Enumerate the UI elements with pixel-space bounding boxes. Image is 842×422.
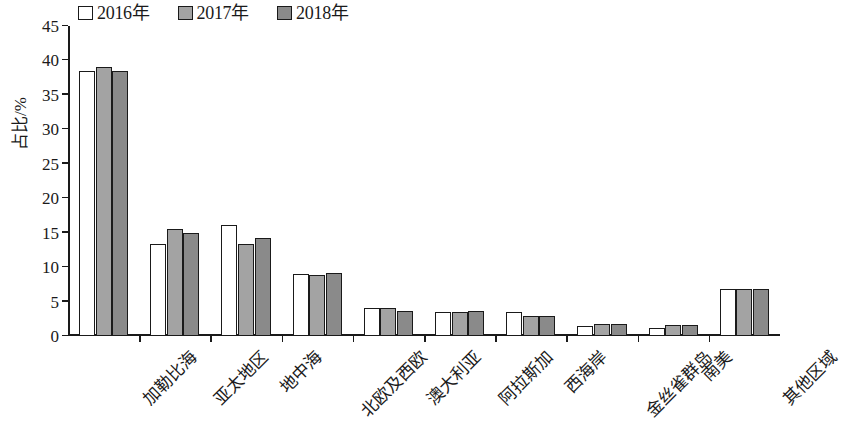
bar — [183, 233, 199, 336]
bar-group — [506, 312, 555, 336]
bar — [96, 67, 112, 336]
y-tick-label: 45 — [42, 18, 59, 35]
y-tick-mark — [62, 93, 68, 95]
y-tick-mark — [62, 300, 68, 302]
bar — [539, 316, 555, 336]
bar — [523, 316, 539, 336]
bar — [293, 274, 309, 336]
y-tick-mark — [62, 59, 68, 61]
bar — [506, 312, 522, 336]
bar — [720, 289, 736, 336]
bar — [150, 244, 166, 336]
bar — [753, 289, 769, 336]
plot-area: 051015202530354045 — [68, 26, 780, 336]
legend-swatch-icon — [277, 6, 292, 20]
x-tick-mark — [566, 336, 568, 342]
legend-entry-2016年: 2016年 — [78, 4, 150, 22]
x-axis-label: 北欧及西欧 — [354, 344, 432, 422]
bar-group — [435, 311, 484, 336]
bar-group — [720, 289, 769, 336]
y-tick-label: 10 — [42, 259, 59, 276]
bar — [468, 311, 484, 336]
x-axis-label: 亚太地区 — [207, 344, 273, 410]
y-tick-label: 40 — [42, 52, 59, 69]
y-tick-label: 15 — [42, 224, 59, 241]
x-tick-mark — [139, 336, 141, 342]
x-tick-mark — [210, 336, 212, 342]
bar — [594, 324, 610, 336]
bar — [649, 328, 665, 336]
y-tick-mark — [62, 128, 68, 130]
legend-swatch-icon — [178, 6, 193, 20]
x-tick-mark — [495, 336, 497, 342]
bar-group — [577, 324, 626, 336]
legend-label: 2016年 — [97, 4, 150, 22]
y-tick-mark — [62, 266, 68, 268]
y-tick-mark — [62, 162, 68, 164]
y-tick-label: 20 — [42, 190, 59, 207]
y-tick-label: 0 — [51, 328, 60, 345]
bar — [736, 289, 752, 336]
x-tick-mark — [282, 336, 284, 342]
y-tick-label: 5 — [51, 293, 60, 310]
bar — [167, 229, 183, 336]
x-axis-label: 加勒比海 — [136, 344, 202, 410]
legend-label: 2018年 — [296, 4, 349, 22]
bar-group — [293, 273, 342, 336]
y-tick-mark — [62, 197, 68, 199]
y-axis-label: 占比/% — [6, 97, 31, 150]
chart-legend: 2016年2017年2018年 — [78, 4, 349, 22]
bar — [577, 326, 593, 336]
y-tick-mark — [62, 335, 68, 337]
bar — [238, 244, 254, 336]
bar — [665, 325, 681, 336]
bar — [112, 71, 128, 336]
bar — [221, 225, 237, 336]
bar — [364, 308, 380, 336]
legend-label: 2017年 — [197, 4, 250, 22]
x-axis-label: 其他区域 — [776, 344, 842, 410]
bar — [682, 325, 698, 336]
legend-swatch-icon — [78, 6, 93, 20]
y-tick-label: 25 — [42, 155, 59, 172]
bar-group — [79, 67, 128, 336]
bar — [326, 273, 342, 336]
bar — [309, 275, 325, 336]
y-tick-label: 35 — [42, 86, 59, 103]
bar — [255, 238, 271, 336]
y-tick-label: 30 — [42, 121, 59, 138]
y-tick-mark — [62, 25, 68, 27]
x-tick-mark — [424, 336, 426, 342]
legend-entry-2018年: 2018年 — [277, 4, 349, 22]
bar — [397, 311, 413, 336]
bar-group — [364, 308, 413, 336]
x-axis-label: 地中海 — [273, 344, 327, 398]
bar — [452, 312, 468, 336]
bar — [380, 308, 396, 336]
bar — [611, 324, 627, 336]
y-tick-mark — [62, 231, 68, 233]
x-axis-label: 澳大利亚 — [420, 344, 486, 410]
x-tick-mark — [709, 336, 711, 342]
x-axis-label: 金丝雀群岛 — [639, 344, 717, 422]
x-tick-mark — [638, 336, 640, 342]
bar — [435, 312, 451, 336]
legend-entry-2017年: 2017年 — [178, 4, 250, 22]
bar-group — [649, 325, 698, 336]
x-axis-label: 西海岸 — [558, 344, 612, 398]
bar — [79, 71, 95, 336]
y-axis-line — [68, 26, 70, 336]
bar-group — [150, 229, 199, 336]
bar-group — [221, 225, 270, 336]
x-axis-label: 阿拉斯加 — [492, 344, 558, 410]
x-tick-mark — [353, 336, 355, 342]
